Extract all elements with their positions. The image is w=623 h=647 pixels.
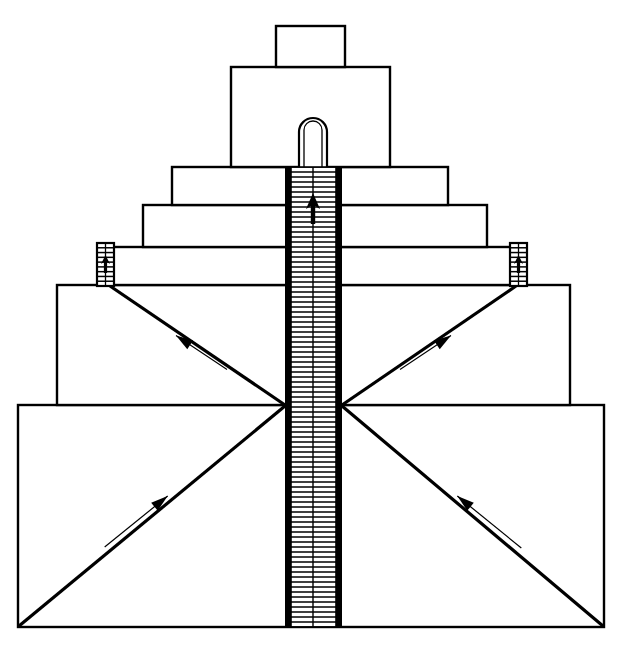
- elevation-drawing-canvas: [0, 0, 623, 647]
- landing-left: [97, 243, 114, 286]
- ziggurat-elevation-figure: Stepped ziggurat elevation with central …: [0, 0, 623, 647]
- arch-inner-outline: [304, 121, 322, 170]
- landing-right: [510, 243, 527, 286]
- stairway-left-wall: [285, 167, 291, 627]
- stairway-right-wall: [336, 167, 342, 627]
- summit-shrine: [276, 26, 345, 67]
- central-stairway: [285, 167, 342, 627]
- arched-doorway: [299, 118, 327, 170]
